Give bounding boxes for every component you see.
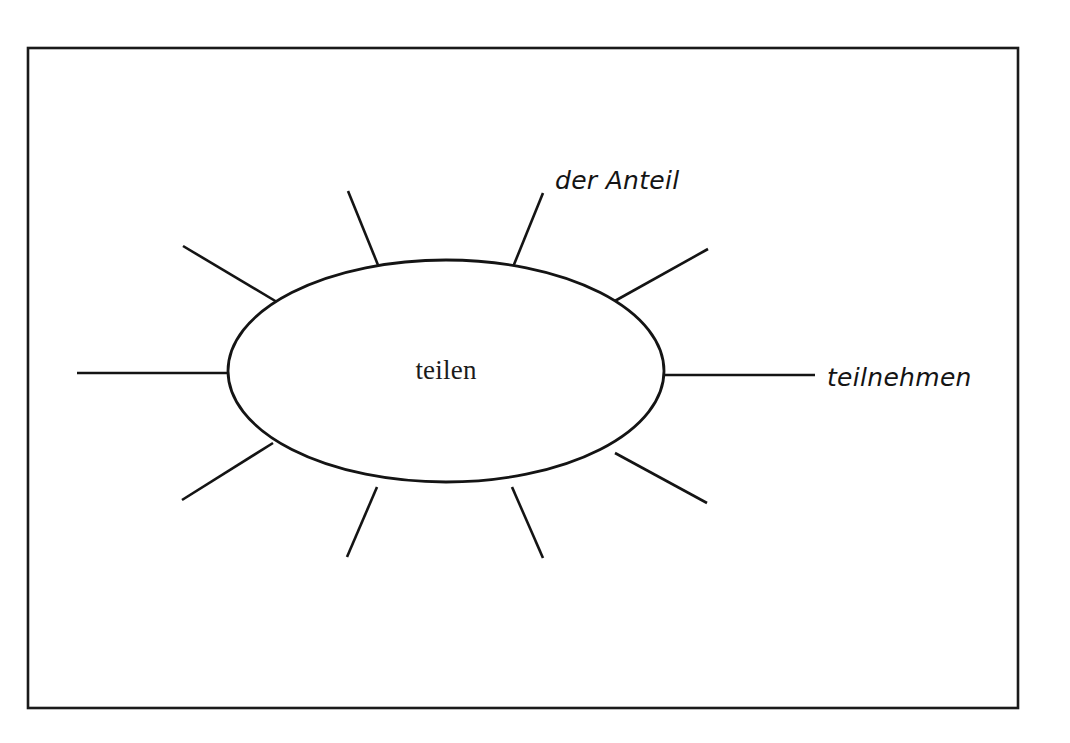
worksheet-page: teilen der Anteilteilnehmen	[0, 0, 1070, 743]
spoke-line-1	[348, 191, 378, 265]
spoke-line-5	[615, 453, 707, 503]
word-web-diagram: teilen der Anteilteilnehmen	[0, 0, 1070, 743]
spoke-line-3	[613, 249, 708, 302]
spoke-label-4: teilnehmen	[827, 363, 972, 392]
center-word-label: teilen	[415, 355, 476, 385]
spoke-line-8	[182, 443, 273, 500]
spoke-line-10	[183, 246, 277, 302]
spoke-line-7	[347, 487, 377, 557]
spoke-line-6	[512, 487, 543, 558]
spoke-line-2	[513, 193, 543, 267]
spoke-label-2: der Anteil	[555, 166, 680, 195]
